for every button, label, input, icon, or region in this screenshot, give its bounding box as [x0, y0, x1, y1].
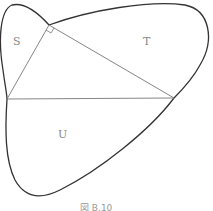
label-s: S — [13, 35, 21, 48]
label-u: U — [58, 128, 67, 141]
region-t-boundary — [49, 4, 208, 98]
diagram-canvas — [0, 0, 213, 211]
triangle-hypotenuse — [7, 98, 174, 99]
region-u-boundary — [6, 98, 174, 196]
region-s-boundary — [0, 5, 49, 99]
label-t: T — [143, 35, 150, 48]
triangle-side-right — [49, 25, 174, 98]
figure-caption: 図 B.10 — [80, 201, 112, 211]
